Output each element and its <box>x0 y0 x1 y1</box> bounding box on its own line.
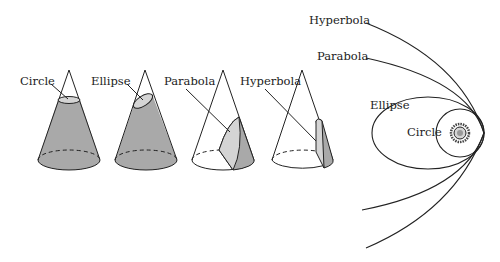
sun-icon <box>451 124 469 142</box>
cone-hyperbola-label: Hyperbola <box>240 76 301 88</box>
orbit-ellipse-label: Ellipse <box>370 100 410 112</box>
cone-ellipse-label: Ellipse <box>91 76 131 88</box>
orbit-parabola-label: Parabola <box>317 51 368 63</box>
orbit-hyperbola-label: Hyperbola <box>309 15 370 27</box>
orbit-circle-label: Circle <box>407 127 442 139</box>
cone-parabola-label: Parabola <box>164 76 215 88</box>
cone-circle-label: Circle <box>20 76 55 88</box>
